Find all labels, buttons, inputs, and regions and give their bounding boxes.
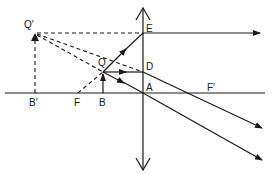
- label-e: E: [146, 23, 153, 34]
- label-f-prime: F′: [207, 82, 215, 93]
- virtual-ray-f-q: [78, 72, 103, 93]
- ray-d-through-fprime: [143, 72, 262, 128]
- label-f: F: [74, 97, 80, 108]
- ray-q-to-a: [103, 72, 124, 83]
- virtual-ray-qprime-d: [37, 34, 143, 72]
- label-b: B: [99, 97, 106, 108]
- label-q-prime: Q′: [24, 19, 34, 30]
- label-q: Q: [98, 57, 106, 68]
- ray-q-to-e: [103, 49, 126, 72]
- label-d: D: [146, 61, 153, 72]
- label-a: A: [146, 82, 153, 93]
- ray-a-undeviated: [143, 93, 262, 160]
- label-b-prime: B′: [29, 97, 38, 108]
- virtual-ray-qprime-q: [37, 35, 103, 72]
- ray-diagram: Q′ B′ F B Q E D A F′: [0, 0, 273, 174]
